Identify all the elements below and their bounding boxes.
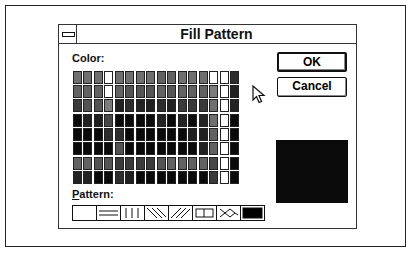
color-swatch[interactable] (178, 142, 187, 155)
color-swatch[interactable] (167, 128, 176, 141)
color-swatch[interactable] (136, 157, 145, 170)
color-swatch[interactable] (188, 114, 197, 127)
color-swatch[interactable] (83, 142, 92, 155)
color-swatch[interactable] (230, 71, 239, 84)
color-swatch[interactable] (178, 171, 187, 184)
color-swatch[interactable] (83, 157, 92, 170)
color-swatch[interactable] (94, 157, 103, 170)
color-swatch[interactable] (115, 71, 124, 84)
color-swatch[interactable] (209, 142, 218, 155)
color-swatch[interactable] (125, 99, 134, 112)
color-swatch[interactable] (125, 128, 134, 141)
color-swatch[interactable] (94, 85, 103, 98)
color-swatch[interactable] (83, 71, 92, 84)
color-swatch[interactable] (230, 85, 239, 98)
color-swatch[interactable] (115, 114, 124, 127)
pattern-option-solid[interactable] (241, 206, 264, 220)
pattern-option-diagonal-cross[interactable] (217, 206, 241, 220)
color-swatch[interactable] (188, 157, 197, 170)
color-swatch[interactable] (157, 85, 166, 98)
color-swatch[interactable] (178, 99, 187, 112)
color-swatch[interactable] (104, 99, 113, 112)
color-swatch[interactable] (115, 157, 124, 170)
color-swatch[interactable] (199, 142, 208, 155)
color-swatch[interactable] (73, 99, 82, 112)
color-swatch[interactable] (230, 114, 239, 127)
color-swatch[interactable] (178, 157, 187, 170)
color-swatch[interactable] (136, 85, 145, 98)
color-swatch[interactable] (125, 171, 134, 184)
ok-button[interactable]: OK (277, 52, 347, 72)
color-swatch[interactable] (83, 85, 92, 98)
color-swatch[interactable] (220, 99, 229, 112)
color-swatch[interactable] (104, 71, 113, 84)
color-swatch[interactable] (115, 128, 124, 141)
color-swatch[interactable] (146, 142, 155, 155)
color-swatch[interactable] (157, 142, 166, 155)
color-swatch[interactable] (73, 114, 82, 127)
color-swatch[interactable] (230, 171, 239, 184)
color-swatch[interactable] (209, 128, 218, 141)
color-swatch[interactable] (178, 71, 187, 84)
color-swatch[interactable] (104, 157, 113, 170)
color-swatch[interactable] (178, 128, 187, 141)
color-swatch[interactable] (73, 157, 82, 170)
color-swatch[interactable] (209, 85, 218, 98)
color-swatch[interactable] (167, 71, 176, 84)
color-swatch[interactable] (125, 157, 134, 170)
color-swatch[interactable] (167, 99, 176, 112)
color-swatch[interactable] (199, 85, 208, 98)
color-swatch[interactable] (125, 71, 134, 84)
color-swatch[interactable] (230, 128, 239, 141)
color-swatch[interactable] (209, 171, 218, 184)
color-swatch[interactable] (157, 71, 166, 84)
color-swatch[interactable] (199, 157, 208, 170)
color-swatch[interactable] (167, 114, 176, 127)
color-swatch[interactable] (188, 128, 197, 141)
color-swatch[interactable] (125, 85, 134, 98)
color-swatch[interactable] (199, 99, 208, 112)
color-swatch[interactable] (73, 171, 82, 184)
color-swatch[interactable] (220, 114, 229, 127)
color-swatch[interactable] (146, 99, 155, 112)
color-swatch[interactable] (220, 85, 229, 98)
pattern-option-horizontal[interactable] (97, 206, 121, 220)
color-swatch[interactable] (167, 157, 176, 170)
color-swatch[interactable] (115, 142, 124, 155)
color-swatch[interactable] (220, 71, 229, 84)
color-swatch[interactable] (167, 85, 176, 98)
color-swatch[interactable] (188, 85, 197, 98)
color-swatch[interactable] (73, 71, 82, 84)
color-swatch[interactable] (220, 142, 229, 155)
color-swatch[interactable] (230, 157, 239, 170)
color-swatch[interactable] (125, 114, 134, 127)
color-swatch[interactable] (136, 114, 145, 127)
color-swatch[interactable] (136, 142, 145, 155)
color-swatch[interactable] (157, 99, 166, 112)
pattern-option-vertical[interactable] (121, 206, 145, 220)
color-swatch[interactable] (73, 142, 82, 155)
color-swatch[interactable] (220, 128, 229, 141)
color-swatch[interactable] (146, 85, 155, 98)
color-swatch[interactable] (188, 142, 197, 155)
color-swatch[interactable] (146, 114, 155, 127)
color-swatch[interactable] (104, 171, 113, 184)
color-swatch[interactable] (188, 171, 197, 184)
color-swatch[interactable] (136, 128, 145, 141)
color-swatch[interactable] (157, 128, 166, 141)
color-swatch[interactable] (83, 128, 92, 141)
color-swatch[interactable] (136, 99, 145, 112)
color-swatch[interactable] (178, 114, 187, 127)
color-swatch[interactable] (73, 128, 82, 141)
color-swatch[interactable] (83, 171, 92, 184)
color-swatch[interactable] (230, 99, 239, 112)
pattern-option-diagonal-down[interactable] (145, 206, 169, 220)
color-swatch[interactable] (220, 157, 229, 170)
color-swatch[interactable] (209, 99, 218, 112)
color-swatch[interactable] (94, 128, 103, 141)
color-swatch[interactable] (115, 99, 124, 112)
color-swatch[interactable] (94, 99, 103, 112)
color-swatch[interactable] (188, 99, 197, 112)
color-swatch[interactable] (94, 71, 103, 84)
color-swatch[interactable] (136, 171, 145, 184)
